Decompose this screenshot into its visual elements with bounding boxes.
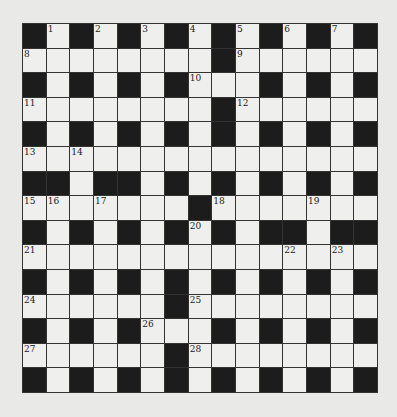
crossword-cell[interactable] (165, 98, 188, 122)
crossword-cell[interactable] (47, 49, 70, 73)
crossword-cell[interactable] (260, 196, 283, 220)
crossword-cell[interactable] (212, 295, 235, 319)
crossword-cell[interactable] (283, 122, 306, 146)
crossword-cell[interactable] (354, 49, 377, 73)
crossword-cell[interactable]: 4 (189, 24, 212, 48)
crossword-cell[interactable] (118, 147, 141, 171)
crossword-cell[interactable] (94, 295, 117, 319)
crossword-cell[interactable] (47, 319, 70, 343)
crossword-cell[interactable]: 13 (23, 147, 46, 171)
crossword-cell[interactable] (94, 245, 117, 269)
crossword-cell[interactable] (165, 245, 188, 269)
crossword-cell[interactable] (331, 368, 354, 392)
crossword-cell[interactable] (118, 196, 141, 220)
crossword-cell[interactable] (141, 221, 164, 245)
crossword-cell[interactable] (70, 172, 93, 196)
crossword-cell[interactable] (331, 196, 354, 220)
crossword-cell[interactable] (236, 196, 259, 220)
crossword-cell[interactable] (283, 73, 306, 97)
crossword-cell[interactable]: 16 (47, 196, 70, 220)
crossword-cell[interactable] (283, 319, 306, 343)
crossword-cell[interactable] (165, 49, 188, 73)
crossword-cell[interactable] (47, 368, 70, 392)
crossword-cell[interactable] (94, 122, 117, 146)
crossword-cell[interactable] (47, 98, 70, 122)
crossword-cell[interactable] (94, 368, 117, 392)
crossword-cell[interactable]: 26 (141, 319, 164, 343)
crossword-cell[interactable] (212, 344, 235, 368)
crossword-cell[interactable] (283, 295, 306, 319)
crossword-cell[interactable] (94, 147, 117, 171)
crossword-cell[interactable]: 17 (94, 196, 117, 220)
crossword-cell[interactable] (141, 245, 164, 269)
crossword-cell[interactable]: 25 (189, 295, 212, 319)
crossword-cell[interactable]: 2 (94, 24, 117, 48)
crossword-cell[interactable] (47, 245, 70, 269)
crossword-cell[interactable] (47, 147, 70, 171)
crossword-cell[interactable] (236, 295, 259, 319)
crossword-cell[interactable]: 14 (70, 147, 93, 171)
crossword-cell[interactable] (260, 98, 283, 122)
crossword-cell[interactable] (260, 147, 283, 171)
crossword-cell[interactable]: 11 (23, 98, 46, 122)
crossword-cell[interactable] (331, 49, 354, 73)
crossword-cell[interactable] (354, 98, 377, 122)
crossword-cell[interactable] (283, 98, 306, 122)
crossword-cell[interactable] (236, 172, 259, 196)
crossword-cell[interactable] (283, 147, 306, 171)
crossword-cell[interactable] (307, 221, 330, 245)
crossword-cell[interactable] (260, 245, 283, 269)
crossword-cell[interactable] (307, 98, 330, 122)
crossword-cell[interactable] (331, 319, 354, 343)
crossword-cell[interactable] (141, 172, 164, 196)
crossword-cell[interactable] (141, 344, 164, 368)
crossword-cell[interactable]: 18 (212, 196, 235, 220)
crossword-cell[interactable] (307, 344, 330, 368)
crossword-cell[interactable] (307, 245, 330, 269)
crossword-cell[interactable]: 22 (283, 245, 306, 269)
crossword-cell[interactable]: 8 (23, 49, 46, 73)
crossword-cell[interactable] (94, 319, 117, 343)
crossword-cell[interactable] (236, 344, 259, 368)
crossword-cell[interactable] (283, 49, 306, 73)
crossword-cell[interactable] (141, 270, 164, 294)
crossword-cell[interactable] (236, 245, 259, 269)
crossword-cell[interactable] (331, 344, 354, 368)
crossword-cell[interactable] (118, 295, 141, 319)
crossword-cell[interactable]: 6 (283, 24, 306, 48)
crossword-cell[interactable] (283, 196, 306, 220)
crossword-cell[interactable] (47, 122, 70, 146)
crossword-cell[interactable] (307, 49, 330, 73)
crossword-cell[interactable] (354, 344, 377, 368)
crossword-cell[interactable] (331, 73, 354, 97)
crossword-cell[interactable] (165, 196, 188, 220)
crossword-cell[interactable] (354, 147, 377, 171)
crossword-cell[interactable] (236, 122, 259, 146)
crossword-cell[interactable] (212, 73, 235, 97)
crossword-cell[interactable]: 9 (236, 49, 259, 73)
crossword-cell[interactable]: 21 (23, 245, 46, 269)
crossword-cell[interactable] (354, 245, 377, 269)
crossword-cell[interactable] (331, 172, 354, 196)
crossword-cell[interactable] (307, 295, 330, 319)
crossword-cell[interactable] (141, 368, 164, 392)
crossword-cell[interactable] (118, 49, 141, 73)
crossword-cell[interactable] (307, 147, 330, 171)
crossword-cell[interactable] (236, 368, 259, 392)
crossword-cell[interactable] (47, 295, 70, 319)
crossword-cell[interactable] (236, 270, 259, 294)
crossword-cell[interactable] (94, 49, 117, 73)
crossword-cell[interactable] (354, 196, 377, 220)
crossword-cell[interactable] (94, 344, 117, 368)
crossword-cell[interactable] (260, 295, 283, 319)
crossword-cell[interactable] (118, 245, 141, 269)
crossword-cell[interactable]: 19 (307, 196, 330, 220)
crossword-cell[interactable] (189, 270, 212, 294)
crossword-cell[interactable] (283, 172, 306, 196)
crossword-cell[interactable] (189, 319, 212, 343)
crossword-cell[interactable] (141, 122, 164, 146)
crossword-cell[interactable] (70, 245, 93, 269)
crossword-cell[interactable] (331, 295, 354, 319)
crossword-cell[interactable] (283, 368, 306, 392)
crossword-cell[interactable]: 7 (331, 24, 354, 48)
